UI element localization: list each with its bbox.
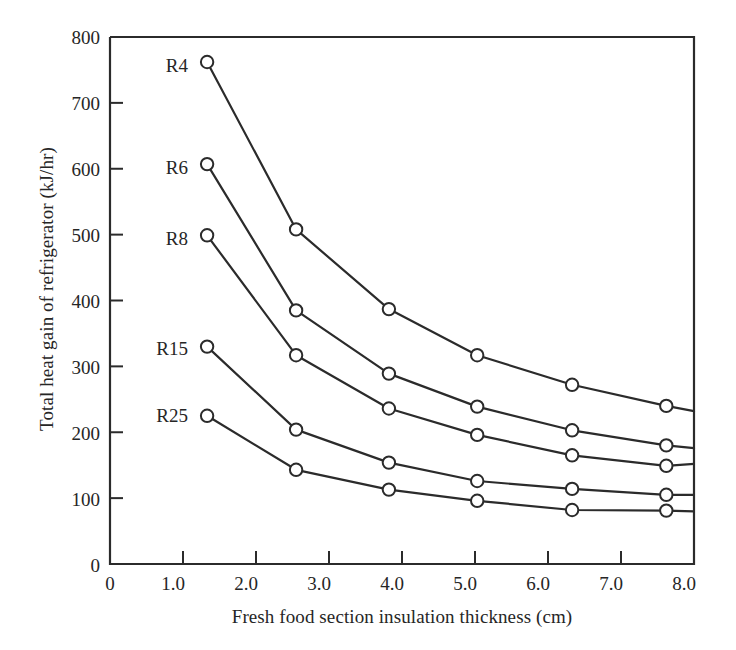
- data-point-r8-2: [383, 402, 395, 414]
- x-tick-label-1: 1.0: [143, 574, 203, 593]
- data-point-r6-3: [471, 400, 483, 412]
- y-axis-title: Total heat gain of refrigerator (kJ/hr): [36, 54, 58, 524]
- data-point-r6-2: [383, 367, 395, 379]
- x-tick-label-3: 3.0: [289, 574, 349, 593]
- data-point-r4-0: [201, 56, 213, 68]
- series-r15: [201, 340, 694, 501]
- data-point-r15-2: [383, 456, 395, 468]
- curve-r25: [207, 416, 694, 512]
- series-label-r4: R4: [120, 56, 188, 75]
- y-tick-label-600: 600: [44, 160, 100, 179]
- axis-frame: [110, 37, 694, 564]
- data-point-r6-1: [290, 304, 302, 316]
- data-point-r4-1: [290, 223, 302, 235]
- series-r6: [201, 158, 694, 452]
- plot-area: [0, 0, 736, 650]
- series-layer: [201, 56, 694, 517]
- x-axis-title: Fresh food section insulation thickness …: [110, 606, 694, 628]
- data-point-r25-4: [566, 504, 578, 516]
- data-point-r4-3: [471, 349, 483, 361]
- y-tick-label-0: 0: [44, 556, 100, 575]
- curve-r6: [207, 164, 694, 448]
- data-point-r6-5: [660, 439, 672, 451]
- y-tick-label-700: 700: [44, 94, 100, 113]
- series-label-r25: R25: [112, 406, 188, 425]
- data-point-r15-3: [471, 475, 483, 487]
- x-tick-label-7: 7.0: [581, 574, 641, 593]
- y-tick-label-400: 400: [44, 292, 100, 311]
- data-point-r15-1: [290, 423, 302, 435]
- x-tick-label-8: 8.0: [654, 574, 714, 593]
- data-point-r6-4: [566, 424, 578, 436]
- data-point-r15-5: [660, 489, 672, 501]
- chart-figure: Total heat gain of refrigerator (kJ/hr) …: [0, 0, 736, 650]
- x-tick-label-2: 2.0: [216, 574, 276, 593]
- series-r4: [201, 56, 694, 412]
- curve-r4: [207, 62, 694, 411]
- y-tick-label-100: 100: [44, 490, 100, 509]
- series-label-r8: R8: [120, 229, 188, 248]
- data-point-r25-0: [201, 410, 213, 422]
- curve-r15: [207, 347, 694, 495]
- curve-r8: [207, 235, 694, 465]
- data-point-r4-2: [383, 303, 395, 315]
- y-tick-label-300: 300: [44, 358, 100, 377]
- x-tick-label-0: 0: [80, 574, 140, 593]
- data-point-r25-3: [471, 495, 483, 507]
- x-tick-label-4: 4.0: [362, 574, 422, 593]
- data-point-r6-0: [201, 158, 213, 170]
- y-tick-label-500: 500: [44, 226, 100, 245]
- data-point-r4-5: [660, 400, 672, 412]
- data-point-r15-0: [201, 340, 213, 352]
- data-point-r8-5: [660, 460, 672, 472]
- data-point-r25-1: [290, 464, 302, 476]
- y-tick-label-200: 200: [44, 424, 100, 443]
- x-tick-label-5: 5.0: [435, 574, 495, 593]
- data-point-r25-2: [383, 483, 395, 495]
- x-tick-label-6: 6.0: [508, 574, 568, 593]
- y-tick-label-800: 800: [44, 28, 100, 47]
- data-point-r8-1: [290, 349, 302, 361]
- series-label-r6: R6: [120, 158, 188, 177]
- data-point-r8-4: [566, 449, 578, 461]
- data-point-r4-4: [566, 379, 578, 391]
- data-point-r15-4: [566, 483, 578, 495]
- data-point-r25-5: [660, 504, 672, 516]
- data-point-r8-0: [201, 229, 213, 241]
- series-label-r15: R15: [112, 339, 188, 358]
- data-point-r8-3: [471, 429, 483, 441]
- series-r8: [201, 229, 694, 472]
